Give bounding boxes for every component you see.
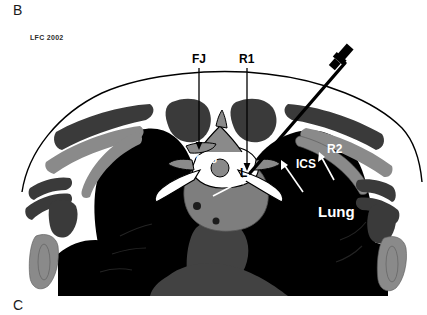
figure-panel-b: B LFC 2002	[0, 0, 427, 315]
axial-chest-illustration	[0, 40, 427, 296]
panel-label-c: C	[13, 297, 23, 313]
panel-label-b: B	[13, 2, 23, 18]
